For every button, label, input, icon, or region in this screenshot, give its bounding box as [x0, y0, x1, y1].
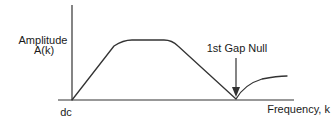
x-axis-label: Frequency, k: [267, 103, 330, 115]
gap-null-annotation-label: 1st Gap Null: [207, 42, 268, 54]
annotation-arrow: [232, 58, 240, 97]
y-axis-label-line2: A(k): [34, 44, 54, 56]
dc-origin-label: dc: [60, 106, 72, 118]
gap-null-response-figure: Amplitude A(k) 1st Gap Null dc Frequency…: [0, 0, 336, 123]
figure-canvas: Amplitude A(k) 1st Gap Null dc Frequency…: [0, 0, 336, 123]
